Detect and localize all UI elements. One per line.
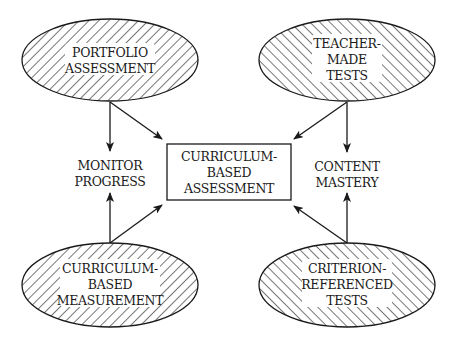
node-curriculum-based-measurement: CURRICULUM- BASED MEASUREMENT xyxy=(22,243,198,327)
outcome-label-line: MASTERY xyxy=(315,175,379,190)
node-label-line: TESTS xyxy=(326,68,367,83)
node-label-line: CRITERION- xyxy=(308,261,386,276)
node-teacher-made-tests: TEACHER- MADE TESTS xyxy=(259,19,435,101)
center-label-line: CURRICULUM- xyxy=(181,149,277,164)
node-label-line: CURRICULUM- xyxy=(62,261,158,276)
node-label-line: TESTS xyxy=(326,293,367,308)
node-criterion-referenced-tests: CRITERION- REFERENCED TESTS xyxy=(259,243,435,327)
node-label-line: REFERENCED xyxy=(301,277,393,292)
node-label-line: TEACHER- xyxy=(313,36,380,51)
node-portfolio-assessment: PORTFOLIO ASSESSMENT xyxy=(22,19,198,101)
node-label-line: ASSESSMENT xyxy=(64,61,156,76)
arrow-criterion-to-cba xyxy=(294,206,347,243)
outcome-monitor-progress: MONITOR PROGRESS xyxy=(74,158,145,189)
outcome-label-line: CONTENT xyxy=(314,159,380,174)
node-label-line: PORTFOLIO xyxy=(72,45,148,60)
center-label-line: BASED xyxy=(207,165,252,180)
node-label-line: MEASUREMENT xyxy=(57,293,164,308)
center-box-curriculum-based-assessment: CURRICULUM- BASED ASSESSMENT xyxy=(167,144,291,200)
arrow-teacher-to-cba xyxy=(294,102,347,139)
arrow-cbm-to-cba xyxy=(110,205,162,243)
curriculum-based-assessment-diagram: PORTFOLIO ASSESSMENT TEACHER- MADE TESTS… xyxy=(0,0,459,344)
node-label-line: BASED xyxy=(88,277,133,292)
outcome-content-mastery: CONTENT MASTERY xyxy=(314,159,380,190)
center-label-line: ASSESSMENT xyxy=(183,181,275,196)
outcome-label-line: MONITOR xyxy=(78,158,144,173)
outcome-label-line: PROGRESS xyxy=(74,174,145,189)
node-label-line: MADE xyxy=(327,52,367,67)
arrow-portfolio-to-cba xyxy=(110,102,162,139)
